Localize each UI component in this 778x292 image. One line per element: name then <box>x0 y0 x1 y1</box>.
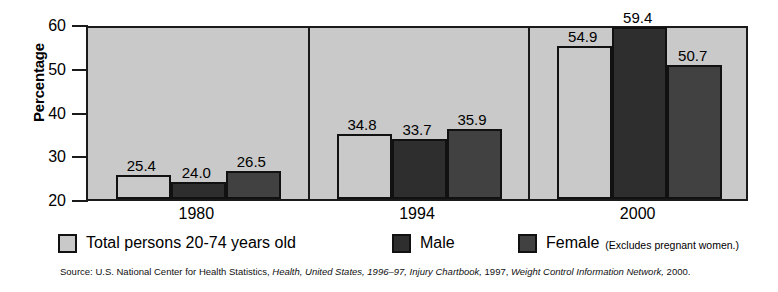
bar-total-1994 <box>337 134 392 199</box>
bar-value-label: 35.9 <box>439 112 506 127</box>
y-axis-tick-label: 50 <box>18 62 66 78</box>
legend-swatch-total <box>58 234 77 253</box>
y-axis-tick-label: 30 <box>18 149 66 165</box>
bar-male-1980 <box>171 182 226 200</box>
bar-value-label: 59.4 <box>604 10 671 25</box>
legend-item-total[interactable]: Total persons 20-74 years old <box>58 231 296 255</box>
bar-female-1994 <box>447 129 502 199</box>
chart-legend: Total persons 20-74 years oldMaleFemale(… <box>58 231 758 255</box>
source-year-1: 1997, <box>485 266 509 277</box>
legend-item-male[interactable]: Male <box>392 231 455 255</box>
bar-female-1980 <box>226 171 281 199</box>
source-publication-1: Health, United States, 1996–97, Injury C… <box>272 266 482 277</box>
y-axis-tick-label: 60 <box>18 18 66 34</box>
legend-label-total: Total persons 20-74 years old <box>86 235 296 251</box>
bar-value-label: 26.5 <box>218 154 285 169</box>
bar-value-label: 54.9 <box>549 29 616 44</box>
group-separator <box>308 28 310 199</box>
bar-female-2000 <box>667 65 722 199</box>
source-note: Source: U.S. National Center for Health … <box>60 266 690 277</box>
group-separator <box>528 28 530 199</box>
bar-total-2000 <box>557 46 612 199</box>
legend-swatch-female <box>518 234 537 253</box>
bar-chart-figure: Percentage 2030405060 25.424.026.5198034… <box>0 0 778 292</box>
source-publication-2: Weight Control Information Network, <box>511 266 664 277</box>
x-axis-tick-label: 1980 <box>86 205 307 223</box>
y-axis-tick-label: 40 <box>18 106 66 122</box>
y-axis-tick-label: 20 <box>18 193 66 209</box>
legend-swatch-male <box>392 234 411 253</box>
x-axis-tick-label: 2000 <box>527 205 748 223</box>
x-axis-tick-label: 1994 <box>307 205 528 223</box>
bar-value-label: 50.7 <box>659 48 726 63</box>
legend-note-female: (Excludes pregnant women.) <box>605 240 739 251</box>
legend-item-female[interactable]: Female(Excludes pregnant women.) <box>518 231 739 255</box>
source-prefix: Source: <box>60 266 93 277</box>
legend-label-male: Male <box>420 235 455 251</box>
bar-male-1994 <box>392 139 447 199</box>
source-year-2: 2000. <box>667 266 691 277</box>
legend-label-female: Female <box>546 235 599 251</box>
source-agency: U.S. National Center for Health Statisti… <box>95 266 269 277</box>
